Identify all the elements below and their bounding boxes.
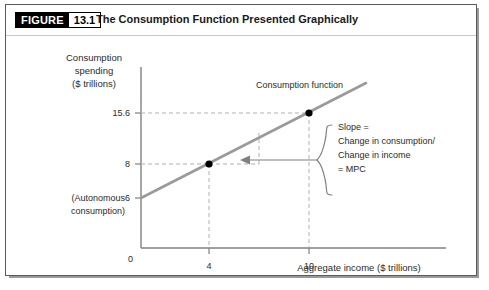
slope-annotation-line3: Change in income	[338, 150, 411, 160]
autonomous-consumption-line1: (Autonomous	[71, 193, 125, 203]
y-axis-title-line3: ($ trillions)	[72, 78, 116, 89]
origin-label: 0	[128, 254, 133, 264]
consumption-function-chart: Consumption spending ($ trillions) 15.6 …	[6, 35, 476, 275]
slope-annotation-line4: = MPC	[338, 164, 366, 174]
chart-plot-area: Consumption spending ($ trillions) 15.6 …	[6, 35, 476, 275]
figure-header: FIGURE 13.1 The Consumption Function Pre…	[6, 5, 476, 35]
x-tick-label-4: 4	[206, 261, 211, 271]
consumption-function-label: Consumption function	[256, 80, 343, 90]
y-tick-label-8: 8	[125, 159, 130, 169]
figure-badge: FIGURE 13.1	[15, 12, 101, 28]
y-axis-title-line2: spending	[75, 65, 114, 76]
autonomous-consumption-line2: consumption)	[71, 206, 125, 216]
figure-badge-word: FIGURE	[16, 13, 69, 27]
data-point-a	[205, 160, 212, 167]
figure-frame: FIGURE 13.1 The Consumption Function Pre…	[5, 4, 477, 276]
x-axis-title: Aggregate income ($ trillions)	[297, 262, 421, 273]
slope-annotation-line1: Slope =	[338, 122, 369, 132]
figure-title: The Consumption Function Presented Graph…	[96, 13, 358, 25]
y-tick-label-15-6: 15.6	[112, 108, 130, 118]
consumption-function-line	[141, 83, 366, 198]
data-point-b	[305, 109, 312, 116]
slope-annotation-line2: Change in consumption/	[338, 136, 436, 146]
y-axis-title-line1: Consumption	[66, 52, 122, 63]
slope-curly-brace	[317, 125, 332, 195]
y-tick-label-6: 6	[125, 193, 130, 203]
slope-pointer-arrowhead	[240, 156, 250, 165]
